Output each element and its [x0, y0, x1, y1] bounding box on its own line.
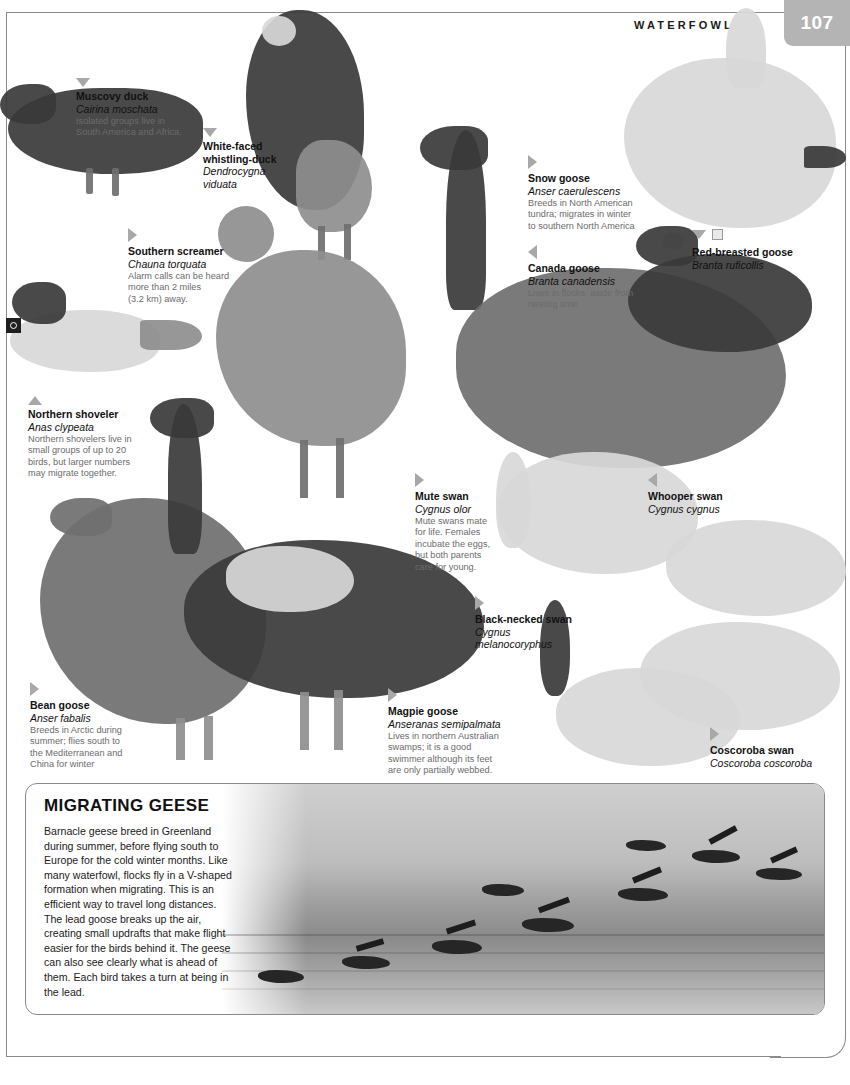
- bird-illustration-northern-shoveler-tail: [140, 320, 202, 350]
- species-scientific-name: Branta ruficollis: [692, 259, 822, 272]
- pointer-triangle-right-icon: [30, 682, 39, 696]
- page-frame-bottom-rule: [6, 1056, 781, 1057]
- species-description: Northern shovelers live in small groups …: [28, 434, 156, 480]
- species-scientific-name: Anser fabalis: [30, 712, 152, 725]
- species-common-name: Red-breasted goose: [692, 246, 822, 259]
- flying-goose: [432, 940, 482, 954]
- page-frame-corner-curve: [770, 1020, 846, 1058]
- bird-illustration-snow-goose-neck: [726, 8, 766, 88]
- species-description: Isolated groups live in South America an…: [76, 116, 216, 139]
- feature-box-migrating-geese: MIGRATING GEESE Barnacle geese breed in …: [25, 783, 825, 1015]
- bird-illustration-whooper-swan: [666, 520, 846, 616]
- species-label-bean-goose: Bean goose Anser fabalis Breeds in Arcti…: [30, 682, 152, 771]
- bird-illustration-magpie-goose-head: [150, 398, 214, 438]
- pointer-triangle-left-icon: [528, 245, 537, 259]
- goose-wing: [446, 920, 476, 935]
- flying-goose: [618, 888, 668, 901]
- species-description: Breeds in North American tundra; migrate…: [528, 198, 648, 232]
- bird-illustration-southern-screamer-leg-2: [336, 438, 344, 498]
- bird-illustration-muscovy-duck-leg: [86, 168, 93, 194]
- bird-illustration-magpie-goose-leg-2: [334, 690, 343, 750]
- bird-illustration-southern-screamer-leg: [300, 440, 308, 498]
- bird-illustration-white-faced-face: [262, 16, 296, 46]
- species-scientific-name: Cygnus olor: [415, 503, 519, 516]
- pointer-triangle-up-icon: [28, 396, 42, 405]
- water-line: [222, 988, 825, 990]
- bird-illustration-magpie-goose-white-patch: [226, 546, 354, 612]
- water-line: [222, 934, 825, 936]
- bird-illustration-canada-goose-head: [420, 126, 488, 170]
- species-description: Lives in northern Australian swamps; it …: [388, 731, 520, 777]
- species-label-mute-swan: Mute swan Cygnus olor Mute swans mate fo…: [415, 473, 519, 573]
- species-scientific-name: Branta canadensis: [528, 275, 650, 288]
- species-common-name: Black-necked swan: [475, 613, 593, 626]
- flying-goose: [342, 956, 390, 969]
- bird-illustration-white-faced-leg-2: [344, 224, 351, 260]
- bird-illustration-muscovy-duck-head: [0, 84, 56, 124]
- species-label-magpie-goose: Magpie goose Anseranas semipalmata Lives…: [388, 688, 520, 777]
- species-scientific-name: Cygnus cygnus: [648, 503, 768, 516]
- flying-goose: [258, 970, 304, 983]
- bird-illustration-bean-goose-head: [50, 498, 112, 536]
- species-label-white-faced-whistling-duck: White-faced whistling-duck Dendrocygna v…: [203, 128, 313, 191]
- photo-credit-icon: [6, 318, 21, 333]
- species-scientific-name: Cairina moschata: [76, 103, 216, 116]
- species-common-name: White-faced whistling-duck: [203, 140, 313, 165]
- goose-wing: [770, 847, 798, 864]
- species-common-name: Mute swan: [415, 490, 519, 503]
- pointer-triangle-right-icon: [528, 155, 537, 169]
- bird-illustration-muscovy-duck-leg-2: [112, 168, 119, 196]
- species-scientific-name: Dendrocygna viduata: [203, 165, 313, 190]
- species-common-name: Coscoroba swan: [710, 744, 834, 757]
- flying-goose: [482, 884, 524, 896]
- goose-wing: [632, 867, 662, 884]
- bird-illustration-bean-goose-leg: [176, 718, 185, 760]
- pointer-triangle-right-icon: [128, 228, 137, 242]
- goose-wing: [538, 897, 570, 914]
- species-scientific-name: Cygnus melanocoryphus: [475, 626, 593, 651]
- species-label-coscoroba-swan: Coscoroba swan Coscoroba coscoroba: [710, 727, 834, 770]
- pointer-triangle-left-icon: [648, 473, 657, 487]
- species-common-name: Canada goose: [528, 262, 650, 275]
- feature-photograph: [222, 784, 825, 1015]
- pointer-triangle-right-icon: [415, 473, 424, 487]
- species-scientific-name: Anser caerulescens: [528, 185, 648, 198]
- pointer-triangle-down-icon: [203, 128, 217, 137]
- pointer-triangle-right-icon: [388, 688, 397, 702]
- species-description: Alarm calls can be heard more than 2 mil…: [128, 271, 252, 305]
- species-common-name: Southern screamer: [128, 245, 252, 258]
- species-description: Breeds in Arctic during summer; flies so…: [30, 725, 152, 771]
- species-label-canada-goose: Canada goose Branta canadensis Lives in …: [528, 245, 650, 311]
- species-scientific-name: Chauna torquata: [128, 258, 252, 271]
- flying-goose: [522, 918, 574, 932]
- species-label-southern-screamer: Southern screamer Chauna torquata Alarm …: [128, 228, 252, 305]
- flying-goose: [692, 850, 740, 863]
- encyclopedia-page: WATERFOWL 107: [0, 0, 850, 1085]
- flying-goose: [756, 868, 802, 880]
- species-label-snow-goose: Snow goose Anser caerulescens Breeds in …: [528, 155, 648, 232]
- pointer-triangle-down-icon: [76, 78, 90, 87]
- species-label-black-necked-swan: Black-necked swan Cygnus melanocoryphus: [475, 596, 593, 652]
- pointer-triangle-right-icon: [710, 727, 719, 741]
- species-label-red-breasted-goose: Red-breasted goose Branta ruficollis: [692, 228, 822, 272]
- bird-illustration-magpie-goose-leg: [300, 692, 309, 750]
- bird-illustration-bean-goose-leg-2: [204, 716, 213, 760]
- species-common-name: Whooper swan: [648, 490, 768, 503]
- goose-wing: [356, 938, 385, 951]
- water-line: [222, 952, 825, 954]
- species-common-name: Northern shoveler: [28, 408, 156, 421]
- bird-illustration-snow-goose: [624, 58, 836, 228]
- species-scientific-name: Anseranas semipalmata: [388, 718, 520, 731]
- feature-title: MIGRATING GEESE: [44, 796, 209, 816]
- pointer-triangle-down-icon: [692, 230, 706, 239]
- water-line: [222, 970, 825, 972]
- flying-goose: [626, 840, 666, 851]
- species-common-name: Muscovy duck: [76, 90, 216, 103]
- species-description: Mute swans mate for life. Females incuba…: [415, 516, 519, 573]
- species-description: Lives in flocks, aside from nesting time: [528, 288, 650, 311]
- pointer-triangle-right-icon: [475, 596, 484, 610]
- camera-lens-icon: [10, 322, 17, 329]
- species-scientific-name: Coscoroba coscoroba: [710, 757, 834, 770]
- species-label-northern-shoveler: Northern shoveler Anas clypeata Northern…: [28, 396, 156, 480]
- species-common-name: Snow goose: [528, 172, 648, 185]
